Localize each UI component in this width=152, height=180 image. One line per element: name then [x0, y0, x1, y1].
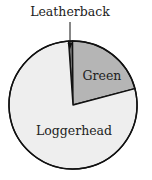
leatherback-label: Leatherback [30, 4, 110, 19]
loggerhead-label: Loggerhead [36, 123, 112, 138]
green-label: Green [83, 68, 122, 83]
pie-chart: Leatherback Green Loggerhead [0, 0, 152, 180]
